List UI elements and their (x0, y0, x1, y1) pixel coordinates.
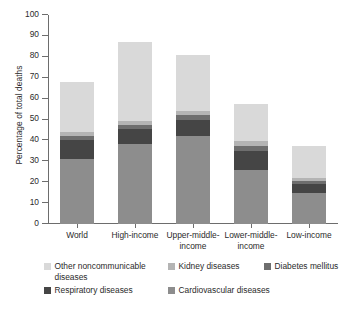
x-axis-labels: WorldHigh-incomeUpper-middle-incomeLower… (48, 230, 338, 256)
bar-stack[interactable] (60, 82, 94, 224)
bar-segment[interactable] (60, 82, 94, 132)
bar-segment[interactable] (292, 193, 326, 224)
y-tick-label-50: 50 (19, 113, 39, 123)
y-tick-label-80: 80 (19, 50, 39, 60)
y-tick-label-10: 10 (19, 197, 39, 207)
y-tick-label-70: 70 (19, 71, 39, 81)
bar-stack[interactable] (234, 104, 268, 224)
legend-swatch-icon (168, 263, 175, 270)
y-tick-label-90: 90 (19, 29, 39, 39)
x-axis-label: World (44, 230, 110, 241)
chart-container: Percentage of total deaths 0102030405060… (0, 0, 349, 309)
x-axis-label: Low-income (276, 230, 342, 241)
x-axis-label-line: High-income (102, 230, 168, 241)
x-tick (135, 224, 136, 228)
y-tick-label-60: 60 (19, 92, 39, 102)
bar-stack[interactable] (118, 42, 152, 224)
x-tick (251, 224, 252, 228)
y-tick-label-40: 40 (19, 134, 39, 144)
y-tick-label-20: 20 (19, 176, 39, 186)
bar-segment[interactable] (234, 104, 268, 142)
x-axis-label-line: Low-income (276, 230, 342, 241)
x-tick (77, 224, 78, 228)
legend-swatch-icon (168, 287, 175, 294)
bar-stack[interactable] (292, 146, 326, 224)
x-tick (309, 224, 310, 228)
bar-segment[interactable] (60, 140, 94, 159)
bar-segment[interactable] (234, 151, 268, 170)
x-tick (193, 224, 194, 228)
chart-legend: Other noncommunicable diseasesKidney dis… (44, 261, 344, 298)
y-tick-label-0: 0 (19, 218, 39, 228)
bar-segment[interactable] (118, 42, 152, 120)
legend-label: Diabetes mellitus (275, 261, 339, 272)
x-axis-label: High-income (102, 230, 168, 241)
bars-layer (48, 15, 338, 224)
y-tick-label-100: 100 (19, 9, 39, 19)
x-axis-label-line: Upper-middle- (160, 230, 226, 241)
legend-item[interactable]: Cardiovascular diseases (168, 285, 270, 296)
y-tick-label-30: 30 (19, 155, 39, 165)
legend-row: Other noncommunicable diseasesKidney dis… (44, 261, 344, 283)
bar-stack[interactable] (176, 55, 210, 224)
x-axis-label: Upper-middle-income (160, 230, 226, 251)
legend-label: Other noncommunicable diseases (55, 261, 169, 283)
legend-swatch-icon (44, 263, 51, 270)
legend-swatch-icon (44, 287, 51, 294)
legend-swatch-icon (264, 263, 271, 270)
legend-item[interactable]: Diabetes mellitus (264, 261, 338, 272)
bar-segment[interactable] (176, 55, 210, 111)
bar-segment[interactable] (292, 146, 326, 178)
x-axis-label-line: income (218, 241, 284, 252)
bar-segment[interactable] (176, 136, 210, 224)
legend-item[interactable]: Respiratory diseases (44, 285, 168, 296)
bar-segment[interactable] (176, 120, 210, 137)
legend-item[interactable]: Kidney diseases (168, 261, 264, 272)
bar-segment[interactable] (118, 129, 152, 144)
plot-area: 0102030405060708090100 (48, 15, 338, 224)
legend-label: Cardiovascular diseases (179, 285, 270, 296)
legend-label: Kidney diseases (179, 261, 240, 272)
x-axis-label-line: Lower-middle- (218, 230, 284, 241)
legend-row: Respiratory diseasesCardiovascular disea… (44, 285, 344, 296)
x-axis-label: Lower-middle-income (218, 230, 284, 251)
x-axis-label-line: income (160, 241, 226, 252)
bar-segment[interactable] (292, 184, 326, 192)
bar-segment[interactable] (234, 170, 268, 224)
x-axis-label-line: World (44, 230, 110, 241)
bar-segment[interactable] (118, 144, 152, 224)
legend-item[interactable]: Other noncommunicable diseases (44, 261, 168, 283)
bar-segment[interactable] (60, 159, 94, 224)
legend-label: Respiratory diseases (55, 285, 133, 296)
